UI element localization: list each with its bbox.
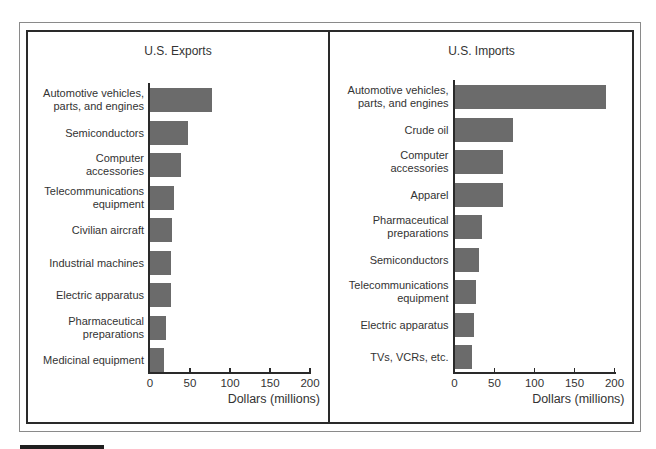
imports-category-label: Computeraccessories (299, 149, 449, 175)
exports-x-tick-label: 150 (250, 377, 290, 389)
exports-category-label: Pharmaceuticalpreparations (0, 315, 144, 341)
imports-x-tick-label: 200 (595, 377, 635, 389)
imports-x-tick (534, 368, 536, 373)
exports-x-tick-label: 200 (290, 377, 330, 389)
imports-category-label: Crude oil (299, 124, 449, 137)
imports-x-axis-label: Dollars (millions) (485, 392, 625, 406)
imports-bar (455, 85, 606, 109)
imports-bar (455, 345, 473, 369)
imports-bar (455, 150, 504, 174)
exports-x-axis-label: Dollars (millions) (180, 392, 320, 406)
imports-category-label: Telecommunicationsequipment (299, 279, 449, 305)
exports-bar (150, 88, 212, 112)
exports-x-tick (189, 368, 191, 373)
exports-chart-panel: U.S. Exports 050100150200Dollars (millio… (28, 32, 328, 422)
exports-category-label: Semiconductors (0, 127, 144, 140)
exports-bar (150, 348, 164, 372)
exports-x-tick-label: 50 (170, 377, 210, 389)
imports-x-tick (574, 368, 576, 373)
exports-bar (150, 218, 172, 242)
imports-bar (455, 248, 480, 272)
imports-x-tick-label: 50 (475, 377, 515, 389)
imports-x-tick-label: 100 (515, 377, 555, 389)
exports-x-tick-label: 0 (130, 377, 170, 389)
exports-x-tick (269, 368, 271, 373)
imports-x-tick-label: 150 (555, 377, 595, 389)
imports-x-tick (614, 368, 616, 373)
imports-x-tick (494, 368, 496, 373)
exports-category-label: Telecommunicationsequipment (0, 185, 144, 211)
imports-bar (455, 280, 477, 304)
exports-x-tick (309, 368, 311, 373)
imports-bar (455, 313, 474, 337)
imports-bar (455, 183, 503, 207)
exports-x-tick-label: 100 (210, 377, 250, 389)
imports-category-label: Automotive vehicles,parts, and engines (299, 84, 449, 110)
exports-bar (150, 251, 171, 275)
exports-bar (150, 283, 171, 307)
exports-bar (150, 121, 188, 145)
exports-chart-title: U.S. Exports (28, 44, 328, 58)
imports-category-label: Apparel (299, 189, 449, 202)
imports-category-label: Electric apparatus (299, 319, 449, 332)
exports-bar (150, 153, 181, 177)
exports-bar (150, 186, 174, 210)
decorative-black-bar (20, 445, 104, 449)
imports-chart-title: U.S. Imports (330, 44, 633, 58)
imports-x-tick-label: 0 (435, 377, 475, 389)
imports-chart-panel: U.S. Imports 050100150200Dollars (millio… (330, 32, 633, 422)
exports-x-tick (229, 368, 231, 373)
exports-category-label: Civilian aircraft (0, 224, 144, 237)
imports-category-label: TVs, VCRs, etc. (299, 351, 449, 364)
exports-category-label: Medicinal equipment (0, 354, 144, 367)
imports-bar (455, 118, 513, 142)
exports-category-label: Automotive vehicles,parts, and engines (0, 87, 144, 113)
exports-category-label: Electric apparatus (0, 289, 144, 302)
exports-category-label: Computeraccessories (0, 152, 144, 178)
imports-bar (455, 215, 482, 239)
imports-category-label: Semiconductors (299, 254, 449, 267)
exports-category-label: Industrial machines (0, 257, 144, 270)
exports-bar (150, 316, 166, 340)
imports-category-label: Pharmaceuticalpreparations (299, 214, 449, 240)
